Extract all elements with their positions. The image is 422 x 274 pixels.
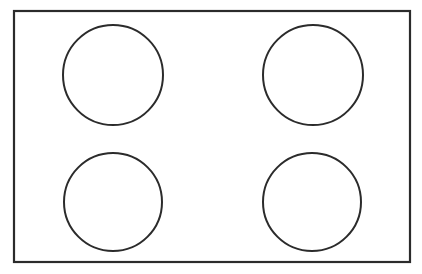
- line-drawing-figure: [0, 0, 422, 274]
- circle-top-right: [263, 25, 363, 125]
- diagram-canvas: [0, 0, 422, 274]
- circle-bottom-left: [64, 153, 162, 251]
- circle-top-left: [63, 25, 163, 125]
- circle-bottom-right: [263, 153, 361, 251]
